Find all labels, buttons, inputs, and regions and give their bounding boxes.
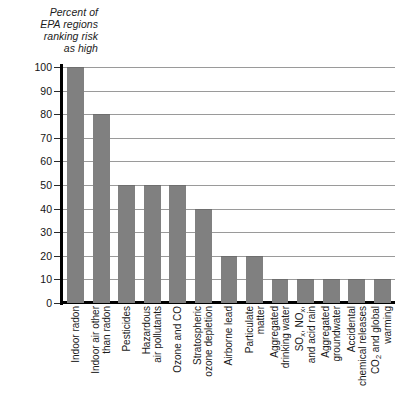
gridline-80 (63, 114, 395, 115)
gridline-50 (63, 185, 395, 186)
bar (221, 256, 238, 303)
y-axis-tick-label-20: 20 (18, 251, 52, 262)
y-axis-tick-label-60: 60 (18, 156, 52, 167)
bar (272, 279, 289, 303)
x-axis-label-text: Ozone and CO (172, 306, 183, 373)
chart-title: Percent of EPA regions ranking risk as h… (4, 6, 98, 54)
x-axis-label-text: Indoor radon (70, 306, 81, 363)
x-axis-label-text: Airborne lead (223, 306, 234, 365)
bar (297, 279, 314, 303)
x-axis-label: Ozone and CO (165, 306, 191, 400)
gridline-100 (63, 67, 395, 68)
x-axis-label: Airborne lead (216, 306, 242, 400)
y-axis-tick-label-10: 10 (18, 274, 52, 285)
y-axis-tick-label-80: 80 (18, 109, 52, 120)
bar (118, 185, 135, 303)
gridline-40 (63, 209, 395, 210)
bar (348, 279, 365, 303)
x-axis-label-text: Indoor air otherthan radon (90, 306, 113, 374)
x-axis-label: Indoor air otherthan radon (89, 306, 115, 400)
y-axis-tick-label-40: 40 (18, 204, 52, 215)
gridline-90 (63, 91, 395, 92)
x-axis-label: Accidentalchemical releases (344, 306, 370, 400)
x-axis-label: Stratosphericozone depletion (191, 306, 217, 400)
x-axis-label: Indoor radon (63, 306, 89, 400)
bar (67, 67, 84, 303)
x-axis-label-text: Aggregateddrinking water (269, 306, 292, 368)
y-axis-tick-label-50: 50 (18, 180, 52, 191)
x-axis-label-text: Particulatematter (243, 306, 266, 353)
plot-area (63, 67, 395, 303)
x-axis-label: Particulatematter (242, 306, 268, 400)
x-axis-label-text: Stratosphericozone depletion (192, 306, 215, 377)
x-axis-label: CO2 and globalwarming (369, 306, 395, 400)
x-axis-category-labels: Indoor radonIndoor air otherthan radonPe… (63, 306, 395, 402)
y-axis-tick-label-30: 30 (18, 227, 52, 238)
y-axis-tick-label-70: 70 (18, 133, 52, 144)
bar (374, 279, 391, 303)
x-axis-label-text: Aggregatedgroundwater (320, 306, 343, 362)
chart-title-line-2: EPA regions (4, 18, 98, 30)
bar (169, 185, 186, 303)
x-axis-label-text: CO2 and globalwarming (370, 306, 394, 374)
bar (323, 279, 340, 303)
y-axis-tick-label-100: 100 (18, 62, 52, 73)
bar (93, 114, 110, 303)
chart-title-line-3: ranking risk (4, 30, 98, 42)
x-axis-label-text: Pesticides (121, 306, 132, 352)
gridline-60 (63, 161, 395, 162)
x-axis-label: Aggregatedgroundwater (318, 306, 344, 400)
x-axis-label: Hazardousair pollutants (140, 306, 166, 400)
x-axis-label: SOx, NOx,and acid rain (293, 306, 319, 400)
y-axis-tick-label-0: 0 (18, 298, 52, 309)
gridline-70 (63, 138, 395, 139)
y-axis-tick-label-90: 90 (18, 86, 52, 97)
bar (195, 209, 212, 303)
bar-chart-figure: Percent of EPA regions ranking risk as h… (0, 0, 411, 404)
x-axis-label-text: Hazardousair pollutants (141, 306, 164, 363)
x-axis-label: Aggregateddrinking water (267, 306, 293, 400)
x-axis-label-text: SOx, NOx,and acid rain (294, 306, 318, 363)
chart-title-line-1: Percent of (4, 6, 98, 18)
bar (246, 256, 263, 303)
chart-title-line-4: as high (4, 42, 98, 54)
x-axis-label-text: Accidentalchemical releases (345, 306, 368, 386)
gridline-30 (63, 232, 395, 233)
x-axis-label: Pesticides (114, 306, 140, 400)
bar (144, 185, 161, 303)
